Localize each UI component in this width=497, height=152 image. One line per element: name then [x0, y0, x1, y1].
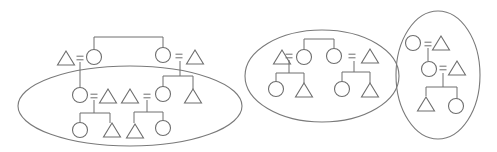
descent-line: [94, 37, 163, 50]
female-circle-icon: [297, 50, 312, 65]
male-triangle-icon: [187, 50, 204, 64]
descent-line: [426, 73, 457, 99]
male-triangle-icon: [362, 49, 379, 63]
female-circle-icon: [156, 121, 171, 136]
female-circle-icon: [406, 36, 421, 51]
male-triangle-icon: [185, 89, 202, 103]
male-triangle-icon: [104, 123, 121, 137]
male-triangle-icon: [100, 89, 117, 103]
descent-line: [342, 61, 370, 83]
male-triangle-icon: [58, 51, 75, 65]
male-triangle-icon: [418, 97, 435, 111]
female-circle-icon: [73, 123, 88, 138]
descent-line: [304, 39, 334, 50]
female-circle-icon: [449, 99, 464, 114]
male-triangle-icon: [127, 124, 144, 138]
male-triangle-icon: [296, 83, 313, 97]
female-circle-icon: [87, 50, 102, 65]
female-circle-icon: [156, 87, 171, 102]
female-circle-icon: [327, 49, 342, 64]
male-triangle-icon: [274, 50, 291, 64]
male-triangle-icon: [122, 89, 139, 103]
male-triangle-icon: [433, 36, 450, 50]
kinship-diagram: [0, 0, 497, 152]
group-ellipse-right: [396, 11, 480, 139]
female-circle-icon: [73, 88, 88, 103]
descent-line: [163, 61, 193, 89]
female-circle-icon: [269, 82, 284, 97]
group-ellipse-middle: [245, 30, 399, 122]
male-triangle-icon: [449, 61, 466, 75]
female-circle-icon: [156, 48, 171, 63]
female-circle-icon: [422, 62, 437, 77]
male-triangle-icon: [362, 83, 379, 97]
female-circle-icon: [335, 82, 350, 97]
